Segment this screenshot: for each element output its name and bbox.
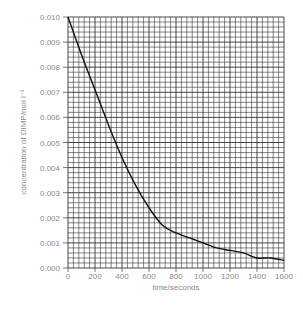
y-tick-label: 0.003 [40, 189, 61, 198]
y-tick-label: 0.006 [40, 113, 61, 122]
x-tick-label: 1200 [221, 272, 239, 281]
x-tick-label: 1400 [248, 272, 266, 281]
y-tick-label: 0.008 [40, 63, 61, 72]
x-tick-label: 1000 [194, 272, 212, 281]
x-tick-label: 600 [142, 272, 156, 281]
y-axis-ticks: 0.0000.0010.0020.0030.0040.0050.0060.007… [40, 13, 68, 273]
y-tick-label: 0.005 [40, 139, 61, 148]
y-tick-label: 0.004 [40, 164, 61, 173]
x-tick-label: 400 [115, 272, 129, 281]
y-tick-label: 0.002 [40, 214, 61, 223]
x-axis-label: time/seconds [152, 283, 199, 292]
y-tick-label: 0.009 [40, 38, 61, 47]
y-tick-label: 0.001 [40, 239, 61, 248]
line-chart: 0.0000.0010.0020.0030.0040.0050.0060.007… [0, 0, 303, 311]
x-tick-label: 1600 [275, 272, 293, 281]
x-axis-ticks: 02004006008001000120014001600 [66, 268, 294, 281]
y-tick-label: 0.010 [40, 13, 61, 22]
x-tick-label: 200 [88, 272, 102, 281]
x-tick-label: 800 [169, 272, 183, 281]
y-axis-label: concentration of DIMP/mol l⁻¹ [19, 89, 28, 194]
x-tick-label: 0 [66, 272, 71, 281]
chart-grid [68, 17, 284, 268]
y-tick-label: 0.000 [40, 264, 61, 273]
y-tick-label: 0.007 [40, 88, 61, 97]
